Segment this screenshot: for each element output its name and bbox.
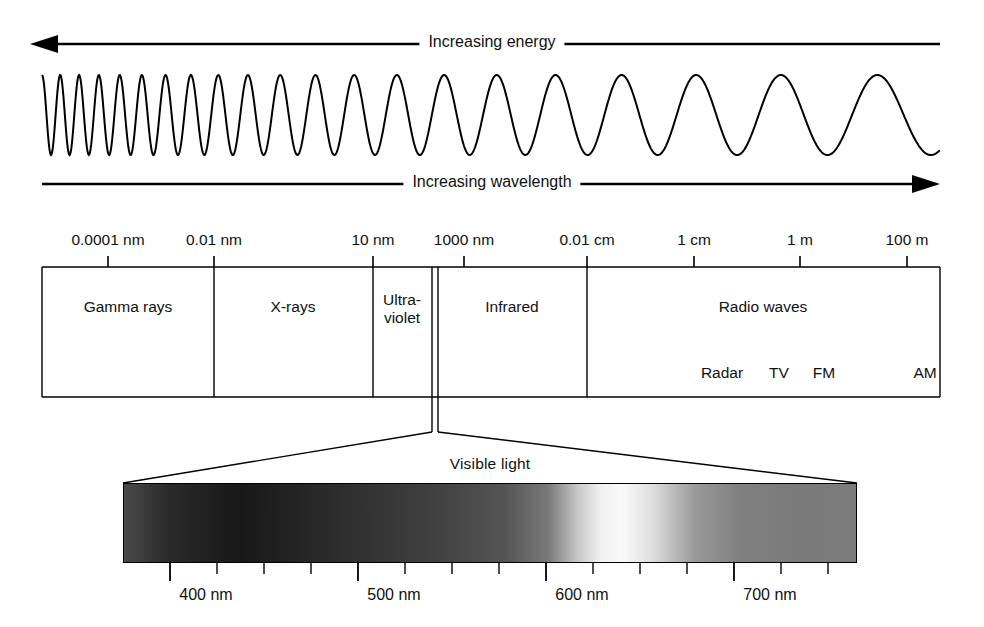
sine-wave (42, 75, 940, 155)
wavelength-tick-label: 400 nm (179, 586, 232, 604)
scale-tick-label: 0.01 cm (559, 231, 614, 249)
wavelength-tick-label: 600 nm (555, 586, 608, 604)
visible-spectrum-bar (123, 483, 857, 563)
band-label-radio-waves: Radio waves (719, 298, 808, 316)
scale-tick-label: 1 m (787, 231, 813, 249)
band-label-x-rays: X-rays (271, 298, 316, 316)
radio-sub-label-fm: FM (813, 364, 835, 382)
scale-tick-label: 0.0001 nm (71, 231, 144, 249)
radio-sub-label-am: AM (913, 364, 936, 382)
band-label-infrared: Infrared (485, 298, 538, 316)
spectrum-scale-axis (42, 267, 940, 397)
wavelength-tick-label: 500 nm (367, 586, 420, 604)
radio-sub-label-tv: TV (769, 364, 789, 382)
increasing-wavelength-label: Increasing wavelength (403, 173, 580, 191)
electromagnetic-spectrum-figure: Increasing energy Increasing wavelength … (0, 0, 984, 627)
radio-sub-label-radar: Radar (701, 364, 743, 382)
scale-tick-label: 100 m (885, 231, 928, 249)
scale-tick-label: 1 cm (677, 231, 711, 249)
band-label-line-2: violet (383, 309, 421, 327)
scale-tick-label: 1000 nm (434, 231, 494, 249)
scale-tick-marks (108, 256, 907, 267)
wavelength-tick-label: 700 nm (743, 586, 796, 604)
band-label-gamma-rays: Gamma rays (84, 298, 173, 316)
visible-light-caption: Visible light (450, 455, 531, 473)
scale-tick-label: 0.01 nm (186, 231, 242, 249)
band-divider-lines (42, 267, 940, 397)
band-label-ultraviolet: Ultra-violet (383, 291, 421, 327)
increasing-energy-label: Increasing energy (419, 33, 564, 51)
scale-tick-label: 10 nm (351, 231, 394, 249)
band-label-line-1: Ultra- (383, 291, 421, 309)
visible-wavelength-axis (170, 563, 828, 581)
